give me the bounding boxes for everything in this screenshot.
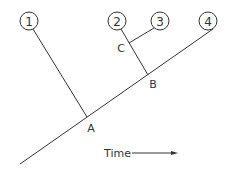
time-axis-label: Time <box>103 147 131 160</box>
right-arrow-icon <box>171 151 178 155</box>
leaf-3-label: 3 <box>156 15 164 29</box>
node-c-label: C <box>117 42 125 55</box>
branch-b-c-line <box>121 29 148 75</box>
leaf-2-label: 2 <box>113 15 121 29</box>
leaf-4-label: 4 <box>204 15 212 29</box>
leaf-1-label: 1 <box>25 15 33 29</box>
node-a-label: A <box>87 122 95 135</box>
node-b-label: B <box>149 78 157 91</box>
branch-1-line <box>33 29 87 117</box>
branch-c-3-line <box>129 28 154 43</box>
phylogenetic-tree-diagram: 1 2 3 4 A B C Time <box>0 0 227 172</box>
